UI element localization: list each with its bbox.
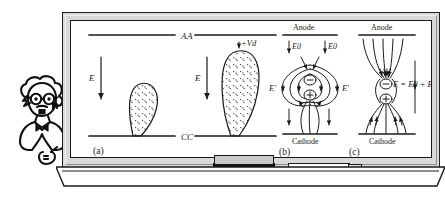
panel-c-resultant-field-label: E = E0 + E' xyxy=(392,79,432,89)
panel-a-anode-label-left: A xyxy=(180,31,187,41)
panel-c-field-lines-lower xyxy=(366,104,406,133)
panel-a-anode-label-right: A xyxy=(186,31,193,41)
panel-c-cathode-label: Cathode xyxy=(369,137,396,146)
panel-c-caption: (c) xyxy=(349,147,360,158)
whiteboard-tray xyxy=(56,166,445,188)
tray-shape xyxy=(56,166,445,188)
panel-c-field-lines-upper xyxy=(363,39,403,78)
whiteboard-frame: A E C A E xyxy=(62,12,440,168)
panel-a-voltage-label: +Vd xyxy=(241,38,257,48)
panel-c-anode-label: Anode xyxy=(371,23,393,32)
panel-b-cathode-label: Cathode xyxy=(292,137,319,146)
panel-a-caption: (a) xyxy=(93,146,104,157)
panel-b-applied-field-label-left: E0 xyxy=(291,42,301,51)
panel-a-field-label-left: E xyxy=(88,73,95,83)
panel-b-induced-field-label-left: E' xyxy=(268,83,276,93)
panel-a-streamer-large xyxy=(222,51,259,136)
panel-b-anode-label: Anode xyxy=(293,23,315,32)
figure-diagrams: A E C A E xyxy=(71,21,431,157)
eraser-body xyxy=(214,155,274,165)
panel-b-caption: (b) xyxy=(279,147,290,158)
panel-b-induced-field-label-right: E' xyxy=(341,83,349,93)
panel-a-streamer-small xyxy=(130,83,158,136)
panel-b-applied-field-label-right: E0 xyxy=(327,42,337,51)
figure-svg: A E C A E xyxy=(71,21,432,158)
panel-a-field-label-right: E xyxy=(194,73,201,83)
panel-a-cathode-label-right: C xyxy=(187,132,194,142)
whiteboard-surface: A E C A E xyxy=(70,20,432,158)
